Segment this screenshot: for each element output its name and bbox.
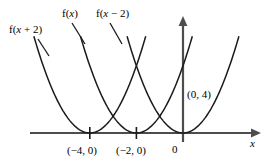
curve-label-f-x-plus-2: f(x + 2) xyxy=(9,24,42,35)
tick-label-minus4: (−4, 0) xyxy=(67,145,97,156)
curve-label-f-x: f(x) xyxy=(62,8,78,19)
x-axis-label: x xyxy=(250,138,255,149)
graph-figure: f(x + 2) f(x) f(x − 2) (0, 4) (−4, 0) (−… xyxy=(0,0,271,163)
y-axis-arrowhead xyxy=(179,16,188,26)
curve-f-x xyxy=(80,36,192,133)
leader-line-f-x xyxy=(72,23,85,44)
curve-f-x-plus-2 xyxy=(34,36,146,133)
annotation-point-0-4: (0, 4) xyxy=(187,89,211,100)
curve-label-suffix: − 2) xyxy=(108,7,129,19)
curve-label-suffix: ) xyxy=(74,7,78,19)
y-axis xyxy=(179,16,188,142)
leader-line-f-x-minus-2 xyxy=(110,23,122,44)
curve-label-suffix: + 2) xyxy=(21,23,42,35)
curve-label-f-x-minus-2: f(x − 2) xyxy=(96,8,129,19)
tick-label-minus2: (−2, 0) xyxy=(116,145,146,156)
origin-label: 0 xyxy=(172,144,178,155)
